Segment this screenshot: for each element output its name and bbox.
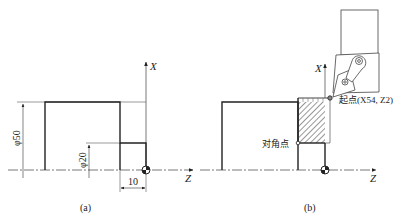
caption-b: (b) xyxy=(304,202,316,214)
workpiece-outline-b xyxy=(222,102,298,170)
cutting-area-hatch xyxy=(298,102,325,143)
caption-a: (a) xyxy=(80,202,91,214)
x-axis-label-a: X xyxy=(149,60,158,72)
start-point-marker xyxy=(328,96,332,100)
z-axis-label-b: Z xyxy=(370,172,377,184)
cutting-tool xyxy=(333,10,379,97)
dim-d20-label: φ20 xyxy=(77,152,88,168)
workpiece-outline-a xyxy=(45,102,146,170)
dim-length-label: 10 xyxy=(128,176,138,187)
top-strip xyxy=(298,98,330,102)
start-point-label: 起点(X54, Z2) xyxy=(339,95,393,105)
figure-b: X Z 对角点 起点(X54, Z2) xyxy=(200,10,393,214)
diagram-canvas: X Z φ50 φ20 10 (a) X Z xyxy=(0,0,402,220)
x-axis-label-b: X xyxy=(314,62,323,74)
figure-a: X Z φ50 φ20 10 (a) xyxy=(8,60,193,214)
tool-shank xyxy=(341,10,378,55)
corner-point-label: 对角点 xyxy=(262,138,289,149)
origin-marker-a xyxy=(142,166,150,174)
z-axis-label-a: Z xyxy=(185,172,192,184)
dim-d50-label: φ50 xyxy=(11,130,22,146)
corner-point-marker xyxy=(296,141,300,145)
origin-marker-b xyxy=(321,166,329,174)
